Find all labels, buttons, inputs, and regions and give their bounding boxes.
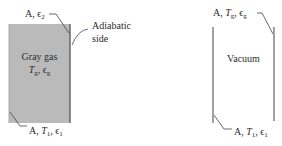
adiabatic-text: Adiabatic (92, 20, 131, 31)
area-symbol: A (234, 126, 241, 137)
subscript: g (231, 12, 235, 20)
side-text: side (92, 33, 131, 44)
bottom-surface-label-left: A, T1, ϵ1 (29, 125, 63, 136)
gray-gas-label: Gray gas Tg, ϵg (9, 51, 70, 75)
top-surface-label-right: A, Tg, ϵg (213, 7, 247, 18)
subscript: 2 (41, 13, 45, 21)
vacuum-label: Vacuum (213, 53, 274, 64)
area-symbol: A (213, 7, 220, 18)
adiabatic-side-label: Adiabatic side (92, 20, 131, 44)
subscript: 1 (252, 131, 256, 139)
leader-line-bottom-right (214, 115, 232, 129)
subscript: 1 (59, 130, 63, 138)
leader-line-top-right (257, 13, 273, 34)
gray-gas-text: Gray gas (9, 51, 70, 62)
subscript: g (47, 69, 51, 77)
leader-line-adiabatic (72, 29, 88, 45)
bottom-surface-label-right: A, T1, ϵ1 (234, 126, 268, 137)
subscript: g (243, 12, 247, 20)
subscript: 1 (47, 130, 51, 138)
subscript: g (34, 69, 38, 77)
area-symbol: A (25, 8, 32, 19)
subscript: 1 (264, 131, 268, 139)
gas-properties: Tg, ϵg (9, 64, 70, 75)
area-symbol: A (29, 125, 36, 136)
top-surface-label-left: A, ϵ2 (25, 8, 45, 19)
